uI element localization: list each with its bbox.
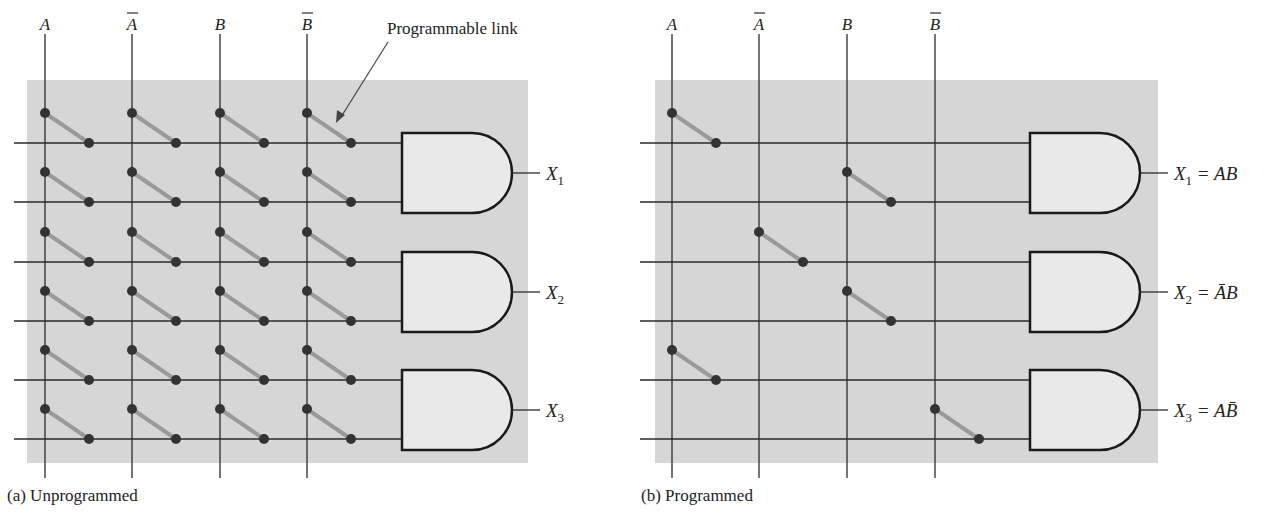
input-label: B (302, 15, 313, 34)
pla-diagram: AABBX1X2X3AABBX1 = ABX2 = ĀBX3 = AB̄Prog… (0, 0, 1275, 529)
input-label: A (753, 15, 765, 34)
annotation-label: Programmable link (387, 19, 518, 38)
and-gate-icon (1030, 252, 1140, 332)
and-gate-icon (1030, 370, 1140, 450)
panel-b: AABBX1 = ABX2 = ĀBX3 = AB̄ (640, 13, 1238, 478)
output-label: X2 = ĀB (1173, 282, 1238, 307)
panel-a: AABBX1X2X3 (14, 13, 564, 478)
input-label: A (39, 15, 51, 34)
input-label: B (930, 15, 941, 34)
and-gate-icon (1030, 133, 1140, 213)
and-gate-icon (402, 133, 512, 213)
caption-programmed: (b) Programmed (641, 486, 753, 506)
caption-unprogrammed: (a) Unprogrammed (7, 486, 138, 506)
output-label: X3 = AB̄ (1173, 400, 1238, 425)
and-gate-icon (402, 370, 512, 450)
output-label: X1 (545, 163, 564, 188)
input-label: A (666, 15, 678, 34)
output-label: X3 (545, 400, 564, 425)
output-label: X1 = AB (1173, 163, 1238, 188)
input-label: A (126, 15, 138, 34)
output-label: X2 (545, 282, 564, 307)
input-label: B (215, 15, 226, 34)
and-gate-icon (402, 252, 512, 332)
input-label: B (842, 15, 853, 34)
